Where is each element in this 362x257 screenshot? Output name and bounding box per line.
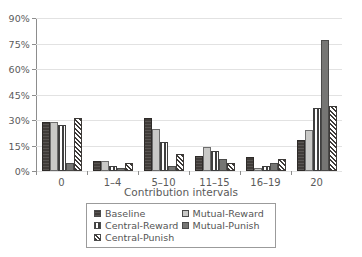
legend-swatch-icon — [94, 222, 101, 229]
bar — [278, 159, 286, 171]
chart-figure: 0%15%30%45%60%75%90% 01–45–1011–1516–192… — [0, 0, 362, 257]
bar-group — [87, 18, 138, 171]
bar-group — [138, 18, 189, 171]
bar — [125, 163, 133, 172]
legend-swatch-icon — [182, 210, 189, 217]
bar — [176, 154, 184, 171]
legend-swatch-icon — [182, 222, 189, 229]
bar — [117, 168, 125, 171]
bar — [50, 122, 58, 171]
bar — [227, 163, 235, 172]
bar-group — [291, 18, 342, 171]
bar — [203, 147, 211, 171]
bar — [195, 156, 203, 171]
y-tick-label: 60% — [9, 64, 30, 75]
chart-legend: BaselineMutual-RewardCentral-RewardMutua… — [86, 203, 276, 248]
y-tick-label: 15% — [9, 140, 30, 151]
bar — [219, 159, 227, 171]
bar — [101, 161, 109, 171]
legend-swatch-icon — [94, 210, 101, 217]
bar — [254, 168, 262, 171]
bar — [297, 140, 305, 171]
bar — [270, 163, 278, 172]
legend-item: Central-Punish — [94, 232, 182, 243]
plot-area: 0%15%30%45%60%75%90% 01–45–1011–1516–192… — [36, 18, 342, 171]
x-tick-mark — [138, 171, 139, 175]
bar-group — [189, 18, 240, 171]
bar — [168, 166, 176, 171]
legend-swatch-icon — [94, 234, 101, 241]
x-tick-mark — [36, 171, 37, 175]
bar — [246, 157, 254, 171]
bar-group — [240, 18, 291, 171]
legend-item: Central-Reward — [94, 220, 182, 231]
legend-label: Central-Reward — [105, 220, 178, 231]
legend-label: Mutual-Reward — [193, 208, 264, 219]
legend-label: Mutual-Punish — [193, 220, 260, 231]
legend-label: Central-Punish — [105, 232, 174, 243]
bar — [329, 106, 337, 171]
y-tick-label: 90% — [9, 13, 30, 24]
bar — [42, 122, 50, 171]
x-tick-mark — [291, 171, 292, 175]
bar — [321, 40, 329, 171]
bar — [74, 118, 82, 171]
legend-label: Baseline — [105, 208, 145, 219]
y-tick-label: 45% — [9, 89, 30, 100]
bar-group — [36, 18, 87, 171]
y-tick-label: 0% — [15, 166, 30, 177]
bar — [58, 125, 66, 171]
bar-groups — [36, 18, 342, 171]
bar — [313, 108, 321, 171]
x-axis-title: Contribution intervals — [0, 186, 362, 198]
bar — [152, 129, 160, 172]
bar — [144, 118, 152, 171]
bar — [262, 166, 270, 171]
bar — [211, 151, 219, 171]
x-tick-mark — [87, 171, 88, 175]
y-tick-label: 30% — [9, 115, 30, 126]
legend-item: Baseline — [94, 208, 182, 219]
x-tick-mark — [240, 171, 241, 175]
legend-item: Mutual-Punish — [182, 220, 270, 231]
bar — [109, 166, 117, 171]
y-tick-label: 75% — [9, 38, 30, 49]
bar — [305, 130, 313, 171]
bar — [66, 163, 74, 172]
bar — [93, 161, 101, 171]
bar — [160, 142, 168, 171]
x-tick-mark — [189, 171, 190, 175]
legend-item: Mutual-Reward — [182, 208, 270, 219]
